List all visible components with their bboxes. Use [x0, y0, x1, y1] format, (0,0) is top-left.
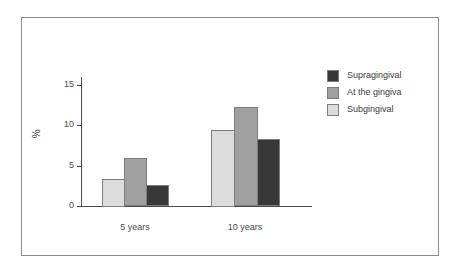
legend-label-supragingival: Supragingival: [347, 71, 402, 80]
y-tick-label-10-wrap: 10: [50, 120, 74, 130]
y-tick-label-0-wrap: 0: [50, 201, 74, 211]
y-tick-label-5-wrap: 5: [50, 161, 74, 171]
legend-swatch-supragingival: [327, 70, 339, 82]
y-tick-15: [77, 85, 81, 86]
legend-item-at-the-gingiva: At the gingiva: [327, 84, 402, 101]
y-tick-label-10: 10: [64, 120, 74, 129]
y-tick-label-0: 0: [69, 201, 74, 210]
legend-swatch-subgingival: [327, 104, 339, 116]
legend-label-subgingival: Subgingival: [347, 105, 394, 114]
bar-10years-subgingival: [211, 130, 235, 207]
bar-5years-at-the-gingiva: [124, 158, 147, 207]
bar-5years-subgingival: [102, 179, 125, 207]
legend-item-subgingival: Subgingival: [327, 101, 402, 118]
bar-5years-supragingival: [146, 185, 169, 207]
y-axis-line: [81, 77, 82, 207]
bar-10years-at-the-gingiva: [234, 107, 258, 207]
y-tick-label-5: 5: [69, 161, 74, 170]
y-tick-10: [77, 125, 81, 126]
y-tick-label-15-wrap: 15: [50, 80, 74, 90]
x-category-label-5-years: 5 years: [95, 222, 175, 232]
x-category-label-10-years: 10 years: [205, 222, 285, 232]
y-axis-label: %: [31, 129, 42, 138]
legend-item-supragingival: Supragingival: [327, 67, 402, 84]
y-tick-label-15: 15: [64, 80, 74, 89]
y-tick-0: [77, 206, 81, 207]
legend-label-at-the-gingiva: At the gingiva: [347, 88, 402, 97]
legend-swatch-at-the-gingiva: [327, 87, 339, 99]
plot-area: 0 5 10 15 % 5 years 10 years: [0, 0, 460, 274]
figure-container: 0 5 10 15 % 5 years 10 years: [0, 0, 460, 274]
y-tick-5: [77, 166, 81, 167]
chart-legend: Supragingival At the gingiva Subgingival: [327, 67, 402, 118]
bar-10years-supragingival: [257, 139, 280, 206]
